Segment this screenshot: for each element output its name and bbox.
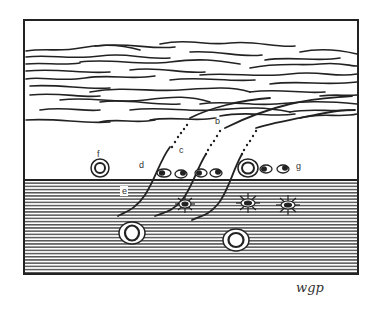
cell: [157, 169, 171, 177]
ring-upper: [238, 159, 258, 177]
label-g: g: [296, 161, 301, 171]
label-b: b: [215, 116, 220, 126]
label-f: f: [97, 149, 100, 159]
label-d: d: [139, 160, 144, 170]
cell: [175, 170, 187, 178]
label-c: c: [179, 145, 184, 155]
cell: [195, 169, 207, 177]
cell: [260, 165, 272, 173]
boundary-cells: [157, 165, 289, 178]
ring-lower-left: [119, 222, 145, 244]
cell: [210, 169, 222, 177]
label-e: e: [122, 186, 127, 196]
artist-signature: wgp: [296, 280, 324, 295]
upper-fibrous-layer: [26, 42, 357, 123]
lower-striated-layer: [24, 180, 358, 274]
dotted-projections: [171, 124, 257, 155]
diagram-canvas: b c d e f g wgp: [0, 0, 380, 311]
ring-lower-right: [223, 229, 249, 251]
ring-f: [91, 159, 109, 177]
cell: [277, 165, 289, 173]
